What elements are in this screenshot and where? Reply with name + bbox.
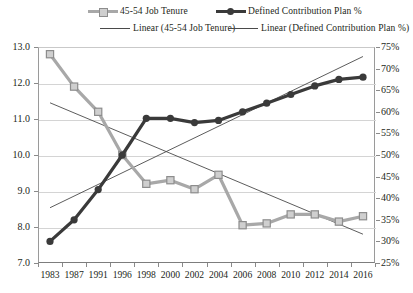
secondary-y-axis-tick-label: 75% xyxy=(381,42,413,52)
data-point-marker[interactable] xyxy=(215,117,222,124)
data-point-marker[interactable] xyxy=(71,216,78,223)
y-axis-tick-label: 10.0 xyxy=(0,150,30,160)
secondary-y-axis-tick xyxy=(376,177,380,178)
data-point-marker[interactable] xyxy=(71,83,78,90)
secondary-y-axis-tick xyxy=(376,133,380,134)
series-line xyxy=(50,54,363,225)
x-axis-tick xyxy=(62,263,63,267)
y-axis-tick-label: 13.0 xyxy=(0,42,30,52)
x-axis-tick xyxy=(255,263,256,267)
data-point-marker[interactable] xyxy=(46,238,53,245)
x-axis-tick xyxy=(231,263,232,267)
x-axis-tick xyxy=(351,263,352,267)
data-point-marker[interactable] xyxy=(191,119,198,126)
data-point-marker[interactable] xyxy=(359,74,366,81)
data-point-marker[interactable] xyxy=(335,76,342,83)
x-axis-tick xyxy=(327,263,328,267)
data-point-marker[interactable] xyxy=(335,218,342,225)
y-axis-tick xyxy=(34,191,38,192)
secondary-y-axis-tick xyxy=(376,220,380,221)
data-point-marker[interactable] xyxy=(359,213,366,220)
x-axis-tick xyxy=(279,263,280,267)
secondary-y-axis-tick-label: 65% xyxy=(381,85,413,95)
secondary-y-axis-tick-label: 55% xyxy=(381,128,413,138)
data-point-marker[interactable] xyxy=(311,211,318,218)
secondary-y-axis-tick-label: 45% xyxy=(381,172,413,182)
data-point-marker[interactable] xyxy=(263,220,270,227)
x-axis-tick xyxy=(158,263,159,267)
data-point-marker[interactable] xyxy=(46,51,53,58)
data-point-marker[interactable] xyxy=(287,211,294,218)
y-axis-tick-label: 11.0 xyxy=(0,114,30,124)
data-point-marker[interactable] xyxy=(167,177,174,184)
y-axis-tick-label: 7.0 xyxy=(0,258,30,268)
data-point-marker[interactable] xyxy=(191,186,198,193)
secondary-y-axis-tick-label: 35% xyxy=(381,215,413,225)
data-point-marker[interactable] xyxy=(95,186,102,193)
y-axis-tick-label: 8.0 xyxy=(0,222,30,232)
y-axis-tick xyxy=(34,83,38,84)
data-point-marker[interactable] xyxy=(215,171,222,178)
chart-container: 45-54 Job Tenure Defined Contribution Pl… xyxy=(0,0,413,293)
secondary-y-axis-tick-label: 60% xyxy=(381,107,413,117)
x-axis-tick xyxy=(86,263,87,267)
y-axis-tick-label: 12.0 xyxy=(0,78,30,88)
data-point-marker[interactable] xyxy=(263,100,270,107)
secondary-y-axis-tick xyxy=(376,241,380,242)
secondary-y-axis-tick-label: 25% xyxy=(381,258,413,268)
x-axis-tick xyxy=(110,263,111,267)
data-point-marker[interactable] xyxy=(95,108,102,115)
data-point-marker[interactable] xyxy=(119,151,126,158)
data-point-marker[interactable] xyxy=(239,222,246,229)
secondary-y-axis-tick xyxy=(376,90,380,91)
secondary-y-axis-tick-label: 70% xyxy=(381,64,413,74)
secondary-y-axis-tick xyxy=(376,155,380,156)
data-point-marker[interactable] xyxy=(143,115,150,122)
secondary-y-axis-tick xyxy=(376,47,380,48)
x-axis-tick-label: 2016 xyxy=(348,270,378,280)
x-axis-tick xyxy=(134,263,135,267)
data-point-marker[interactable] xyxy=(239,108,246,115)
y-axis-tick xyxy=(34,47,38,48)
y-axis-tick xyxy=(34,227,38,228)
secondary-y-axis-tick xyxy=(376,69,380,70)
data-point-marker[interactable] xyxy=(287,91,294,98)
y-axis-tick-label: 9.0 xyxy=(0,186,30,196)
series-layer xyxy=(0,0,413,293)
secondary-y-axis-tick xyxy=(376,112,380,113)
data-point-marker[interactable] xyxy=(143,180,150,187)
x-axis-tick xyxy=(38,263,39,267)
x-axis-tick xyxy=(303,263,304,267)
y-axis-tick xyxy=(34,155,38,156)
y-axis-tick xyxy=(34,119,38,120)
data-point-marker[interactable] xyxy=(311,82,318,89)
secondary-y-axis-tick-label: 50% xyxy=(381,150,413,160)
x-axis-tick xyxy=(182,263,183,267)
trendline xyxy=(50,57,363,208)
secondary-y-axis-tick xyxy=(376,198,380,199)
x-axis-tick xyxy=(375,263,376,267)
secondary-y-axis-tick-label: 30% xyxy=(381,236,413,246)
x-axis-tick xyxy=(207,263,208,267)
data-point-marker[interactable] xyxy=(167,115,174,122)
secondary-y-axis-tick xyxy=(376,263,380,264)
secondary-y-axis-tick-label: 40% xyxy=(381,193,413,203)
